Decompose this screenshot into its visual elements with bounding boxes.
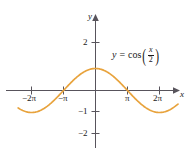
x-axis-label: x: [180, 90, 184, 99]
y-axis: [92, 14, 99, 148]
fraction-denominator: 2: [148, 56, 154, 64]
equation-close-paren: ): [155, 48, 159, 63]
equation-fraction: x 2: [148, 46, 154, 65]
x-tick-label-pi: π: [125, 94, 130, 103]
y-tick-label-neg2: −2: [78, 129, 88, 138]
y-axis-arrow-icon: [92, 14, 99, 21]
equation-function: cos: [128, 50, 141, 60]
x-tick-label-2pi: 2π: [153, 94, 162, 103]
x-tick-label-neg2pi: −2π: [22, 94, 36, 103]
x-tick-label-negpi: −π: [58, 94, 68, 103]
equation-equals: =: [119, 50, 125, 60]
equation-lhs: y: [112, 50, 116, 60]
fraction-numerator: x: [148, 46, 154, 54]
cosine-graph-figure: −2π −π π 2π 2 −1 −2 y x y = cos ( x 2 ): [0, 0, 191, 152]
y-tick-label-neg1: −1: [78, 107, 88, 116]
y-axis-label: y: [88, 12, 92, 21]
x-axis-arrow-icon: [173, 87, 180, 94]
equation-annotation: y = cos ( x 2 ): [112, 46, 160, 65]
y-tick-label-2: 2: [83, 38, 88, 47]
plot-canvas: [0, 0, 191, 152]
equation-open-paren: (: [143, 48, 147, 63]
